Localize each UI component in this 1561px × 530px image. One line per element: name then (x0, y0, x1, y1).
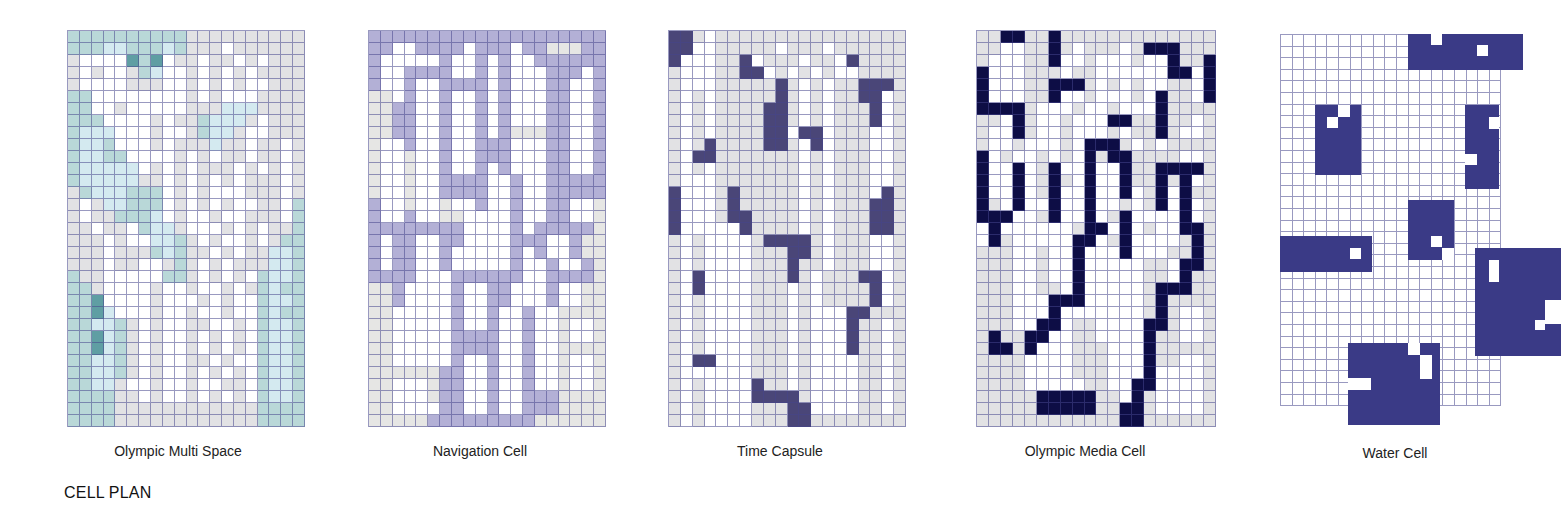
plan-cell (246, 415, 258, 427)
plan-cell (1180, 79, 1192, 91)
plan-cell (1073, 79, 1085, 91)
plan-cell (799, 175, 811, 187)
plan-cell (369, 211, 381, 223)
plan-cell (381, 307, 393, 319)
plan-cell (1061, 307, 1073, 319)
plan-cell (1374, 174, 1386, 186)
plan-cell (823, 79, 835, 91)
plan-cell (811, 331, 823, 343)
plan-cell (92, 343, 104, 355)
plan-cell (1374, 81, 1386, 93)
plan-cell (1085, 163, 1097, 175)
plan-cell (246, 331, 258, 343)
plan-cell (1490, 221, 1502, 233)
plan-cell (80, 79, 92, 91)
plan-cell (92, 55, 104, 67)
plan-cell (764, 187, 776, 199)
plan-cell (1432, 93, 1444, 105)
plan-cell (1073, 403, 1085, 415)
plan-cell (764, 91, 776, 103)
plan-cell (1397, 313, 1409, 325)
plan-cell (440, 283, 452, 295)
water-opening (1348, 378, 1371, 390)
plan-cell (1156, 67, 1168, 79)
plan-cell (669, 235, 681, 247)
plan-cell (488, 247, 500, 259)
plan-cell (151, 55, 163, 67)
plan-cell (570, 379, 582, 391)
plan-cell (393, 223, 405, 235)
plan-cell (511, 235, 523, 247)
plan-cell (416, 319, 428, 331)
plan-cell (1120, 247, 1132, 259)
plan-cell (416, 415, 428, 427)
plan-cell (151, 223, 163, 235)
plan-cell (1073, 283, 1085, 295)
plan-cell (681, 223, 693, 235)
plan-cell (393, 247, 405, 259)
plan-cell (570, 103, 582, 115)
plan-cell (788, 139, 800, 151)
plan-cell (1073, 235, 1085, 247)
plan-cell (989, 163, 1001, 175)
plan-cell (1144, 139, 1156, 151)
plan-cell (847, 271, 859, 283)
plan-cell (139, 151, 151, 163)
plan-cell (222, 235, 234, 247)
plan-cell (281, 43, 293, 55)
plan-cell (1013, 259, 1025, 271)
plan-cell (1132, 307, 1144, 319)
plan-cell (416, 295, 428, 307)
plan-cell (1455, 360, 1467, 372)
plan-cell (269, 79, 281, 91)
plan-cell (681, 199, 693, 211)
plan-cell (705, 31, 717, 43)
plan-cell (1025, 175, 1037, 187)
plan-cell (1293, 186, 1305, 198)
plan-cell (764, 55, 776, 67)
plan-cell (92, 91, 104, 103)
plan-cell (440, 235, 452, 247)
plan-cell (847, 55, 859, 67)
plan-cell (847, 343, 859, 355)
plan-cell (269, 91, 281, 103)
plan-cell (428, 391, 440, 403)
plan-cell (488, 199, 500, 211)
plan-cell (535, 67, 547, 79)
plan-cell (175, 379, 187, 391)
plan-cell (1316, 290, 1328, 302)
plan-cell (428, 235, 440, 247)
plan-cell (198, 331, 210, 343)
plan-cell (175, 223, 187, 235)
plan-cell (258, 31, 270, 43)
plan-cell (1304, 348, 1316, 360)
plan-cell (115, 235, 127, 247)
plan-cell (1001, 115, 1013, 127)
plan-cell (559, 391, 571, 403)
plan-cell (693, 115, 705, 127)
plan-cell (246, 211, 258, 223)
plan-cell (764, 331, 776, 343)
plan-cell (547, 403, 559, 415)
plan-cell (1096, 211, 1108, 223)
plan-cell (499, 199, 511, 211)
plan-cell (1144, 187, 1156, 199)
plan-cell (198, 103, 210, 115)
plan-cell (1144, 79, 1156, 91)
plan-cell (464, 127, 476, 139)
plan-cell (535, 211, 547, 223)
plan-cell (1192, 355, 1204, 367)
plan-cell (464, 91, 476, 103)
plan-cell (428, 403, 440, 415)
plan-cell (440, 415, 452, 427)
plan-cell (1455, 325, 1467, 337)
plan-cell (222, 223, 234, 235)
plan-cell (1144, 259, 1156, 271)
plan-cell (1085, 31, 1097, 43)
plan-cell (381, 43, 393, 55)
plan-cell (811, 79, 823, 91)
plan-cell (127, 163, 139, 175)
plan-cell (693, 151, 705, 163)
plan-cell (499, 223, 511, 235)
plan-cell (705, 259, 717, 271)
